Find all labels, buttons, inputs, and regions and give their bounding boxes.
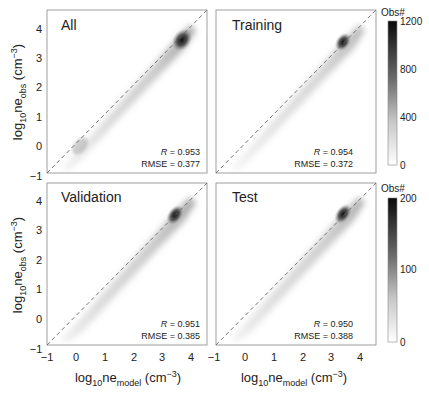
svg-text:−1: −1 [208,351,221,363]
panel-title: Validation [61,189,121,205]
svg-text:200: 200 [400,193,417,204]
svg-text:4: 4 [36,23,42,35]
svg-text:4: 4 [36,195,42,207]
svg-text:1: 1 [271,351,277,363]
svg-text:0: 0 [400,337,406,348]
svg-text:100: 100 [400,264,417,275]
panel-title: Training [232,17,282,33]
x-axis-label-left: log10nemodel (cm−3) [75,369,181,388]
svg-text:−1: −1 [30,170,43,182]
svg-text:0: 0 [36,313,42,325]
svg-text:2: 2 [36,254,42,266]
colorbar-top: Obs# 1200 800 400 0 [381,7,423,171]
x-ticks-left: −1 0 1 2 3 4 [41,351,194,363]
rmse-value: RMSE = 0.377 [141,159,200,169]
r-value: R = 0.953 [161,147,200,157]
y-axis-label-bottom: log10neobs (cm−3) [9,217,28,313]
svg-text:1: 1 [102,351,108,363]
panel-training: Training R = 0.954 RMSE = 0.372 [216,10,376,173]
y-ticks-bottom: 4 3 2 1 0 −1 [30,195,43,355]
svg-text:2: 2 [36,81,42,93]
svg-text:3: 3 [36,52,42,64]
figure: All R = 0.953 RMSE = 0.377 Training R = … [0,0,429,396]
svg-text:3: 3 [159,351,165,363]
panel-title: All [61,17,77,33]
r-value: R = 0.954 [314,147,353,157]
svg-text:1: 1 [36,283,42,295]
svg-text:−1: −1 [41,351,54,363]
panel-validation: Validation R = 0.951 RMSE = 0.385 [47,183,207,345]
rmse-value: RMSE = 0.388 [294,331,353,341]
svg-text:1: 1 [36,111,42,123]
svg-text:0: 0 [242,351,248,363]
svg-text:2: 2 [300,351,306,363]
svg-text:4: 4 [188,351,194,363]
colorbar-bottom: Obs# 200 100 0 [381,183,417,348]
r-value: R = 0.950 [314,319,353,329]
svg-text:3: 3 [36,224,42,236]
panel-test: Test R = 0.950 RMSE = 0.388 [216,183,376,345]
svg-text:400: 400 [400,112,417,123]
x-axis-label-right: log10nemodel (cm−3) [241,369,347,388]
y-axis-label-top: log10neobs (cm−3) [9,44,28,140]
rmse-value: RMSE = 0.372 [294,159,353,169]
rmse-value: RMSE = 0.385 [141,331,200,341]
svg-text:0: 0 [400,160,406,171]
svg-text:3: 3 [328,351,334,363]
r-value: R = 0.951 [161,319,200,329]
x-ticks-right: −1 0 1 2 3 4 [208,351,363,363]
svg-text:0: 0 [36,140,42,152]
panel-all: All R = 0.953 RMSE = 0.377 [47,10,207,173]
panel-title: Test [232,189,258,205]
y-ticks-top: 4 3 2 1 0 −1 [30,23,43,182]
svg-text:1200: 1200 [400,16,423,27]
svg-text:0: 0 [73,351,79,363]
svg-text:800: 800 [400,64,417,75]
svg-text:4: 4 [357,351,363,363]
svg-text:2: 2 [131,351,137,363]
